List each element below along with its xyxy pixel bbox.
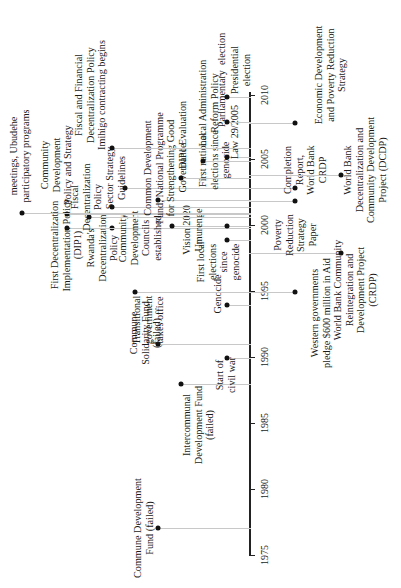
event-label: Economic Development and Poverty Reducti… [313, 26, 348, 125]
event-connector [227, 97, 251, 98]
event-connector [158, 528, 251, 529]
axis-year-label: 2000 [259, 215, 270, 235]
axis-year-label: 1980 [259, 479, 270, 499]
axis-tick [251, 489, 255, 490]
event-connector [227, 226, 251, 227]
event-marker-dot [179, 176, 184, 181]
event-label: Sector Strategy Guidelines [104, 147, 127, 210]
event-label: Intercommunal Development Fund (failed) [181, 386, 216, 464]
event-label: Completion Report, World Bank CRDP [282, 145, 328, 194]
event-connector [227, 122, 251, 123]
event-label: Parliamentary election [216, 33, 228, 127]
axis-year-label: 1990 [259, 347, 270, 367]
event-label: Fiscal Decentralization Policy [69, 163, 104, 230]
event-marker-dot [20, 211, 25, 216]
event-marker-dot [133, 290, 138, 295]
event-label: DIP1 Evaluation [177, 101, 189, 169]
event-connector [22, 213, 251, 214]
event-marker-dot [293, 121, 298, 126]
event-marker-dot [110, 146, 115, 151]
event-connector [135, 292, 251, 293]
axis-year-label: 2005 [259, 149, 270, 169]
event-label: Law 29/2005 [229, 105, 241, 159]
event-label: World Bank Decentralization and Communit… [342, 117, 388, 223]
event-connector [249, 123, 295, 124]
event-label: World Bank Community Reintegration and D… [332, 240, 378, 341]
event-label: Fiscal and Financial Decentralization Po… [73, 40, 108, 150]
axis-tick [251, 423, 255, 424]
event-label: Western governments pledge $600 million … [309, 258, 332, 368]
axis-tick [251, 357, 255, 358]
event-label: Commune Development Fund (failed) [132, 478, 155, 578]
axis-year-label: 1995 [259, 281, 270, 301]
event-label: Community Development Policy and Strateg… [39, 125, 74, 205]
event-label: Poverty Reduction Strategy Paper [272, 214, 318, 256]
axis-year-label: 1975 [259, 545, 270, 565]
event-marker-dot [225, 224, 230, 229]
event-marker-dot [156, 526, 161, 531]
axis-tick [251, 555, 255, 556]
axis-tick [251, 95, 255, 96]
event-connector [249, 201, 295, 202]
event-marker-dot [201, 159, 206, 164]
event-connector [249, 292, 295, 293]
axis-tick [251, 225, 255, 226]
event-marker-dot [225, 303, 230, 308]
event-marker-dot [170, 224, 175, 229]
event-marker-dot [293, 199, 298, 204]
axis-year-label: 2010 [259, 85, 270, 105]
event-label: Start of civil war [214, 357, 237, 393]
event-connector [203, 161, 251, 162]
event-connector [112, 148, 251, 149]
event-label: Transitional government takes office [131, 296, 166, 345]
event-marker-dot [293, 290, 298, 295]
event-marker-dot [225, 95, 230, 100]
event-label: Presidential election [229, 46, 252, 94]
event-label: meetings, Ubudehe participatory programs [8, 109, 31, 202]
event-connector [181, 178, 251, 179]
event-connector [158, 344, 251, 345]
event-connector [227, 305, 251, 306]
event-connector [249, 175, 341, 176]
axis-tick [251, 159, 255, 160]
axis-year-label: 1985 [259, 413, 270, 433]
